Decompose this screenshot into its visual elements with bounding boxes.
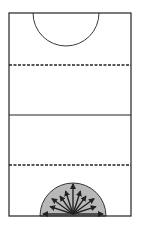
- top-goal-circle: [33, 13, 99, 46]
- top-semicircle: [33, 13, 99, 46]
- court-lines: [9, 65, 131, 165]
- court-diagram: [0, 0, 145, 229]
